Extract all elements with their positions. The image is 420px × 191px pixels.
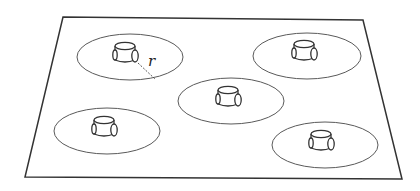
- region-robot-3: [178, 78, 284, 124]
- robot-range-diagram: r: [0, 0, 420, 191]
- plane: [25, 17, 402, 179]
- region-robot-4: [54, 108, 160, 154]
- region-robot-1: r: [77, 34, 183, 80]
- robot-icon: [216, 86, 241, 106]
- radius-label: r: [148, 52, 156, 70]
- robot-icon: [113, 42, 138, 62]
- robot-icon: [309, 130, 334, 150]
- robot-icon: [292, 40, 317, 60]
- region-robot-5: [272, 122, 378, 168]
- robot-icon: [92, 116, 117, 136]
- region-robot-2: [253, 33, 361, 79]
